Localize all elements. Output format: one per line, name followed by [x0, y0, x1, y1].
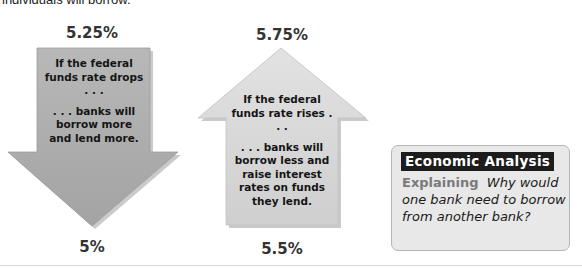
- down-arrow-text-result: . . . banks will borrow more and lend mo…: [44, 105, 144, 146]
- economic-analysis-label: Explaining: [402, 175, 479, 190]
- down-arrow-text-condition: If the federal funds rate drops . . .: [44, 57, 144, 98]
- page-edge-divider: [0, 265, 582, 266]
- up-arrow-text-condition: If the federal funds rate rises . . .: [231, 93, 333, 134]
- economic-analysis-title: Economic Analysis: [401, 152, 554, 171]
- economic-analysis-body: Explaining Why would one bank need to bo…: [402, 174, 567, 225]
- down-arrow-bottom-rate: 5%: [52, 238, 132, 256]
- up-arrow-bottom-rate: 5.5%: [242, 240, 322, 258]
- economic-analysis-box: Economic Analysis Explaining Why would o…: [391, 145, 570, 251]
- up-arrow-text: If the federal funds rate rises . . . . …: [231, 93, 333, 215]
- down-arrow-text: If the federal funds rate drops . . . . …: [44, 57, 144, 152]
- up-arrow-text-result: . . . banks will borrow less and raise i…: [231, 141, 333, 209]
